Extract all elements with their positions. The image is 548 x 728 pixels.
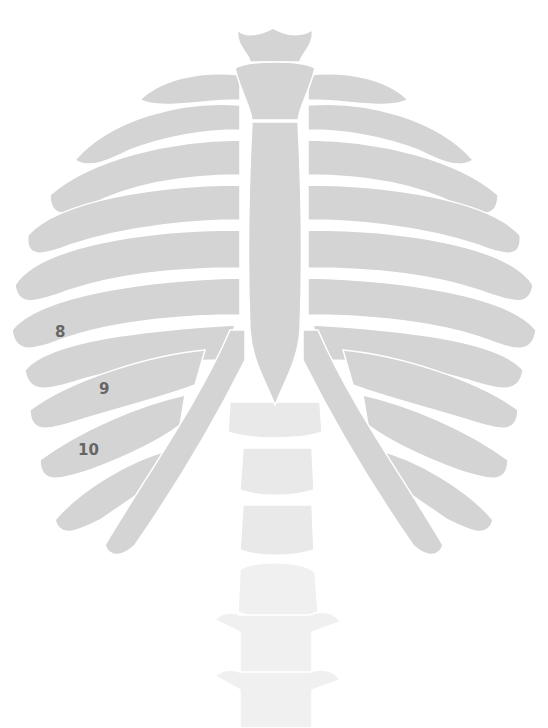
thoracic-vertebrae bbox=[228, 402, 322, 555]
lumbar-vertebrae bbox=[215, 563, 340, 728]
rib-label-10: 10 bbox=[78, 441, 99, 459]
left-ribs bbox=[12, 74, 245, 555]
rib-label-8: 8 bbox=[55, 323, 65, 341]
rib-label-9: 9 bbox=[99, 380, 109, 398]
rib-cage-illustration bbox=[0, 0, 548, 728]
right-ribs bbox=[303, 74, 536, 555]
